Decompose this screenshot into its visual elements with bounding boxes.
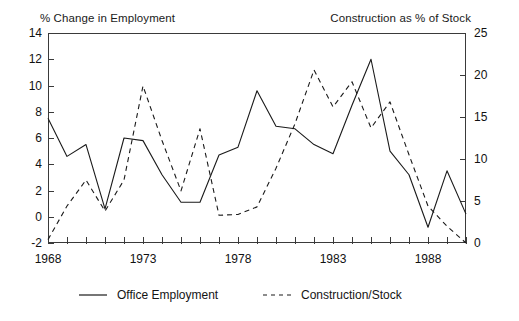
left-axis-tick-mark bbox=[48, 243, 54, 244]
left-axis-tick-label: 4 bbox=[6, 157, 42, 171]
left-axis-tick-label: 14 bbox=[6, 26, 42, 40]
right-axis-tick-label: 10 bbox=[474, 152, 487, 166]
legend-dashed-line-icon bbox=[262, 290, 292, 300]
legend-label-office-employment: Office Employment bbox=[117, 288, 218, 302]
legend-item-construction-stock: Construction/Stock bbox=[262, 288, 402, 302]
left-axis-title: % Change in Employment bbox=[40, 12, 175, 24]
x-axis-tick-label: 1973 bbox=[130, 252, 157, 266]
right-axis-tick-label: 0 bbox=[474, 236, 481, 250]
right-axis-tick-label: 25 bbox=[474, 26, 487, 40]
right-axis-tick-label: 5 bbox=[474, 194, 481, 208]
left-axis-tick-label: 0 bbox=[6, 210, 42, 224]
x-axis-tick-label: 1988 bbox=[415, 252, 442, 266]
right-axis-title: Construction as % of Stock bbox=[330, 12, 471, 24]
x-axis-tick-mark bbox=[466, 237, 467, 244]
chart-figure: % Change in Employment Construction as %… bbox=[0, 0, 519, 321]
plot-area bbox=[48, 33, 466, 243]
chart-legend: Office Employment Construction/Stock bbox=[0, 288, 519, 310]
x-axis-tick-label: 1983 bbox=[320, 252, 347, 266]
right-axis-tick-label: 15 bbox=[474, 110, 487, 124]
left-axis-tick-label: 10 bbox=[6, 79, 42, 93]
legend-solid-line-icon bbox=[78, 290, 108, 300]
x-axis-tick-label: 1968 bbox=[35, 252, 62, 266]
legend-item-office-employment: Office Employment bbox=[78, 288, 218, 302]
left-axis-tick-label: 6 bbox=[6, 131, 42, 145]
right-axis-tick-label: 20 bbox=[474, 68, 487, 82]
left-axis-tick-label: 2 bbox=[6, 184, 42, 198]
left-axis-tick-label: 12 bbox=[6, 52, 42, 66]
x-axis-tick-label: 1978 bbox=[225, 252, 252, 266]
legend-label-construction-stock: Construction/Stock bbox=[301, 288, 402, 302]
series-line-construction-stock bbox=[48, 70, 466, 243]
left-axis-tick-label: 8 bbox=[6, 105, 42, 119]
left-axis-tick-label: -2 bbox=[6, 236, 42, 250]
